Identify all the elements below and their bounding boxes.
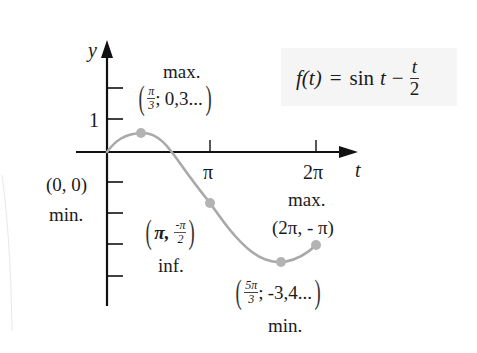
inflection-label-kind: inf.	[158, 256, 184, 275]
inflection-x: π,	[154, 223, 169, 242]
open-paren: (	[146, 215, 152, 249]
x-tick-label-2pi: 2π	[303, 162, 323, 182]
x-axis-arrow-icon	[339, 146, 358, 158]
close-paren: )	[189, 215, 195, 249]
page-edge-shadow	[2, 175, 12, 330]
inflection-label-coord: ( π, -π 2 )	[143, 215, 198, 249]
origin-label-kind: min.	[49, 205, 83, 224]
inflection-frac-den: 2	[174, 233, 186, 246]
max-frac: π 3	[147, 85, 155, 111]
end-max-point	[311, 240, 321, 250]
y-tick-label-1: 1	[89, 110, 99, 130]
max-label-coord: ( π 3 ; 0,3... )	[136, 81, 214, 115]
origin-label-coord: (0, 0)	[46, 175, 87, 194]
formula-equals: =	[330, 68, 342, 89]
inflection-frac: -π 2	[174, 219, 186, 245]
min-frac-num: 5π	[244, 279, 258, 293]
open-paren: (	[236, 275, 242, 309]
close-paren: )	[315, 275, 321, 309]
min-point	[276, 257, 286, 267]
end-max-label-coord: (2π, - π)	[272, 218, 334, 237]
max-y-value: 0,3...	[165, 89, 203, 108]
open-paren: (	[139, 81, 145, 115]
x-tick-label-pi: π	[203, 162, 213, 182]
min-sep: ;	[258, 283, 263, 302]
min-label-kind: min.	[268, 316, 302, 335]
y-axis-arrow-icon	[101, 40, 113, 58]
min-label-coord: ( 5π 3 ; -3,4... )	[233, 275, 323, 309]
x-axis-label: t	[355, 160, 361, 180]
y-ticks	[107, 88, 123, 276]
formula-frac-num: t	[410, 57, 420, 79]
min-frac: 5π 3	[244, 279, 258, 305]
formula-var: t	[380, 68, 386, 89]
max-sep: ;	[155, 89, 160, 108]
inflection-frac-num: -π	[174, 219, 186, 233]
max-frac-den: 3	[147, 99, 155, 112]
formula-minus: −	[392, 68, 404, 89]
close-paren: )	[205, 81, 211, 115]
formula-lhs: f(t)	[296, 68, 322, 89]
function-formula: f(t) = sin t − t 2	[296, 57, 419, 100]
formula-fraction: t 2	[410, 57, 420, 100]
inflection-point	[205, 198, 215, 208]
min-y-value: -3,4...	[268, 283, 312, 302]
max-point	[136, 128, 146, 138]
formula-frac-den: 2	[410, 79, 420, 100]
y-axis-label: y	[88, 40, 97, 60]
formula-sin: sin	[350, 68, 375, 89]
end-max-label-kind: max.	[288, 190, 325, 209]
max-frac-num: π	[147, 85, 155, 99]
x-ticks	[210, 140, 316, 152]
min-frac-den: 3	[244, 293, 258, 306]
max-label-kind: max.	[163, 62, 200, 81]
